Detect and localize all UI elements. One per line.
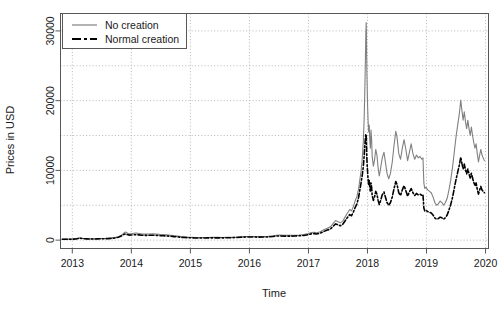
x-tick-label: 2015 [179,257,203,269]
x-tick-label: 2019 [415,257,439,269]
x-tick-label: 2016 [238,257,262,269]
y-axis-title: Prices in USD [4,106,16,175]
legend-label-normal-creation: Normal creation [105,33,179,45]
x-tick-label: 2014 [120,257,144,269]
price-line-chart: 2013201420152016201720182019202001000020… [0,0,503,310]
x-tick-label: 2018 [356,257,380,269]
y-tick-label: 30000 [45,16,57,45]
chart-figure: 2013201420152016201720182019202001000020… [0,0,503,310]
x-tick-label: 2013 [61,257,85,269]
y-tick-label: 10000 [45,156,57,185]
x-axis-title: Time [262,287,286,299]
x-tick-label: 2020 [474,257,498,269]
x-tick-label: 2017 [297,257,321,269]
y-tick-label: 0 [45,237,57,243]
y-tick-label: 20000 [45,86,57,115]
chart-legend: No creation Normal creation [63,14,187,49]
legend-label-no-creation: No creation [105,19,159,31]
